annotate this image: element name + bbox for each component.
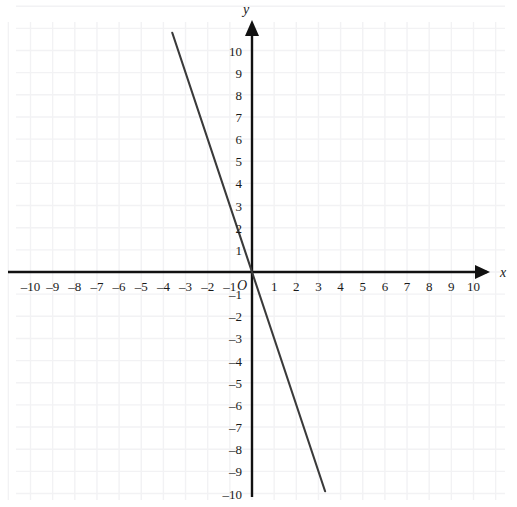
y-tick-label: 9 — [236, 66, 243, 81]
y-tick-label: –7 — [228, 420, 243, 435]
y-tick-label: 4 — [236, 176, 243, 191]
y-tick-label: 5 — [236, 154, 243, 169]
x-tick-label: 4 — [337, 279, 344, 294]
x-axis-label: x — [499, 265, 507, 280]
y-tick-label: 6 — [236, 132, 243, 147]
x-tick-label: 2 — [293, 279, 300, 294]
x-tick-label: –4 — [156, 279, 171, 294]
y-tick-label: 3 — [236, 199, 243, 214]
graph-canvas: –10–9–8–7–6–5–4–3–2–11234567891010987654… — [0, 0, 517, 507]
y-tick-label: –4 — [228, 354, 243, 369]
x-tick-label: –3 — [178, 279, 192, 294]
x-tick-label: 7 — [404, 279, 411, 294]
x-tick-label: –8 — [67, 279, 81, 294]
x-tick-label: 1 — [271, 279, 278, 294]
origin-label: O — [237, 278, 247, 293]
y-axis-label: y — [241, 2, 250, 17]
y-tick-label: 1 — [236, 243, 243, 258]
y-tick-label: –9 — [228, 464, 242, 479]
x-tick-label: –10 — [20, 279, 41, 294]
x-tick-label: 6 — [382, 279, 389, 294]
y-tick-label: –3 — [228, 331, 242, 346]
y-tick-label: 2 — [236, 221, 243, 236]
x-tick-label: 3 — [315, 279, 322, 294]
x-tick-label: –6 — [112, 279, 127, 294]
x-tick-label: –7 — [89, 279, 104, 294]
y-tick-label: –10 — [222, 487, 243, 502]
y-tick-label: 8 — [236, 88, 243, 103]
x-tick-label: 10 — [467, 279, 480, 294]
chart-background — [0, 0, 517, 507]
y-tick-label: –8 — [228, 442, 242, 457]
x-tick-label: 9 — [448, 279, 455, 294]
y-tick-label: –6 — [228, 398, 243, 413]
x-tick-label: 8 — [426, 279, 433, 294]
x-tick-label: –9 — [45, 279, 59, 294]
x-tick-label: 5 — [360, 279, 367, 294]
y-tick-label: 7 — [236, 110, 243, 125]
x-tick-label: –5 — [134, 279, 148, 294]
x-tick-label: –2 — [200, 279, 214, 294]
y-tick-label: –5 — [228, 376, 242, 391]
y-tick-label: –2 — [228, 309, 242, 324]
coordinate-plane-graph: –10–9–8–7–6–5–4–3–2–11234567891010987654… — [0, 0, 517, 507]
y-tick-label: 10 — [229, 44, 242, 59]
